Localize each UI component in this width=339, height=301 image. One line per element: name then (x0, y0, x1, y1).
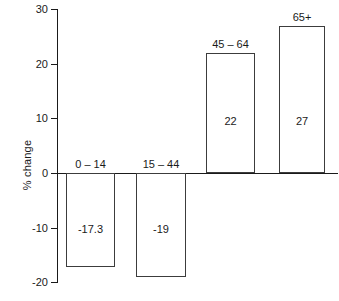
y-axis-tick (51, 64, 58, 65)
bar-value-label: 22 (206, 116, 255, 127)
y-axis-tick-label: 30 (2, 4, 48, 15)
bar (279, 26, 325, 173)
y-axis-tick-label: 10 (2, 113, 48, 124)
bar-category-label: 45 – 64 (192, 39, 269, 50)
bar-category-label: 65+ (265, 12, 339, 23)
bar (206, 53, 255, 173)
y-axis-tick-label: 0 (2, 168, 48, 179)
y-axis-tick (51, 228, 58, 229)
y-axis-tick (51, 9, 58, 10)
bar-value-label: -19 (136, 224, 186, 235)
bar-category-label: 15 – 44 (122, 159, 200, 170)
y-axis-tick (51, 282, 58, 283)
y-axis-tick-label: 20 (2, 59, 48, 70)
bar-value-label: -17.3 (66, 224, 115, 235)
bar (66, 173, 115, 267)
y-axis-tick (51, 173, 58, 174)
y-axis-tick-label: -20 (2, 277, 48, 288)
bar-value-label: 27 (279, 116, 325, 127)
y-axis-tick (51, 118, 58, 119)
y-axis-tick-label: -10 (2, 223, 48, 234)
bar-category-label: 0 – 14 (52, 159, 129, 170)
y-axis-line (57, 9, 58, 283)
bar-chart-figure: % change 3020100-10-20 -17.30 – 14-1915 … (0, 0, 339, 301)
